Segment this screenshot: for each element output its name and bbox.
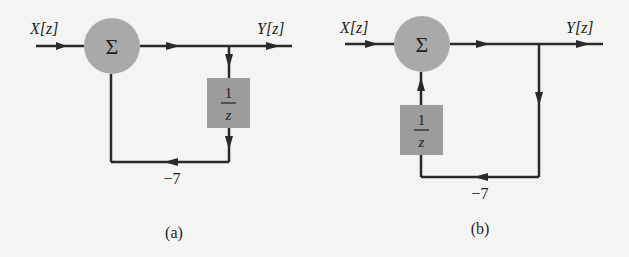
output-label-b: Y[z] (566, 19, 594, 36)
input-label-a: X[z] (29, 20, 58, 37)
arrow-icon (56, 42, 67, 50)
arrow-icon (474, 173, 488, 181)
delay-denominator: z (418, 134, 425, 150)
arrow-icon (225, 54, 233, 68)
arrow-icon (476, 40, 490, 48)
caption-b: (b) (471, 220, 490, 238)
delay-numerator: 1 (225, 85, 233, 101)
arrow-icon (576, 40, 590, 48)
arrow-icon (365, 40, 378, 48)
delay-numerator: 1 (418, 112, 426, 128)
sigma-symbol: Σ (416, 32, 429, 57)
arrow-icon (266, 42, 280, 50)
diagram-a: Σ 1 z X[z] Y[z] −7 (a) (29, 18, 292, 242)
gain-label-a: −7 (163, 170, 180, 187)
caption-a: (a) (165, 224, 183, 242)
output-label-a: Y[z] (257, 20, 285, 37)
diagram-b: Σ 1 z X[z] Y[z] −7 (b) (339, 16, 603, 238)
arrow-icon (164, 158, 178, 166)
input-label-b: X[z] (339, 19, 368, 36)
sigma-symbol: Σ (106, 34, 119, 59)
arrow-icon (225, 136, 233, 150)
arrow-icon (417, 77, 425, 91)
delay-denominator: z (225, 107, 232, 123)
gain-label-b: −7 (471, 185, 488, 202)
arrow-icon (535, 92, 543, 106)
arrow-icon (166, 42, 180, 50)
